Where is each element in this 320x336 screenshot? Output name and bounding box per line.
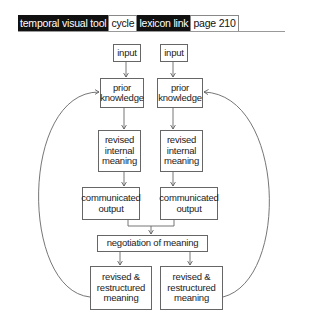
left-revised-internal-meaning-box: revised internal meaning: [98, 130, 141, 172]
left-prior-knowledge-box: prior knowledge: [100, 78, 144, 108]
left-revised-restructured-meaning-box: revised & restructured meaning: [90, 266, 152, 310]
right-revised-internal-meaning-box: revised internal meaning: [160, 130, 203, 172]
right-prior-knowledge-box: prior knowledge: [157, 78, 203, 108]
right-input-box: input: [160, 44, 188, 62]
left-communicated-output-box: communicated output: [82, 187, 140, 220]
right-revised-restructured-meaning-box: revised & restructured meaning: [160, 266, 223, 310]
left-input-box: input: [113, 44, 141, 62]
right-communicated-output-box: communicated output: [160, 187, 218, 220]
negotiation-of-meaning-box: negotiation of meaning: [97, 235, 208, 252]
